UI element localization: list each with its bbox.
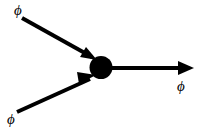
feynman-diagram-figure: ϕ ϕ ϕ	[0, 0, 201, 132]
outgoing-right-field-label: ϕ	[177, 79, 185, 94]
interaction-vertex-blob	[90, 56, 113, 79]
incoming-top-field-label: ϕ	[14, 3, 22, 18]
incoming-bottom-field-label: ϕ	[7, 112, 15, 127]
feynman-diagram-canvas	[0, 0, 201, 132]
